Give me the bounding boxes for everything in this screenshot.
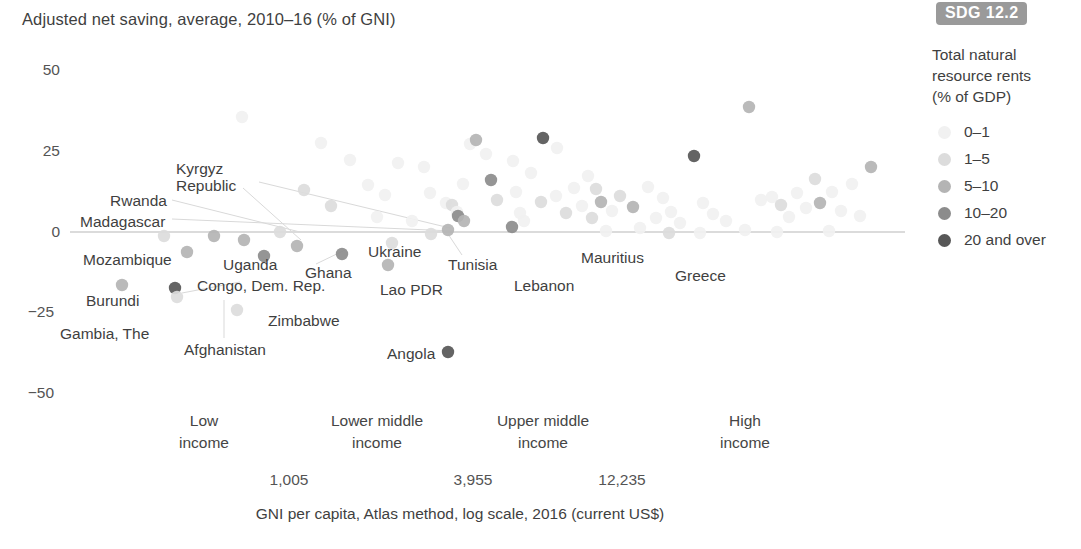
legend-swatch-icon <box>938 153 951 166</box>
scatter-point <box>755 194 767 206</box>
scatter-point <box>158 230 170 242</box>
legend-title: Total natural resource rents (% of GDP) <box>932 44 1081 108</box>
country-label-gambia-the: Gambia, The <box>60 325 149 342</box>
country-label-uganda: Uganda <box>223 256 277 273</box>
scatter-point <box>298 184 310 196</box>
country-label-rwanda: Rwanda <box>110 192 167 209</box>
x-group-line-2: income <box>119 432 289 454</box>
scatter-point <box>739 224 751 236</box>
legend-item-5-10[interactable]: 5–10 <box>932 173 1081 200</box>
scatter-point <box>688 150 700 162</box>
scatter-point <box>634 222 646 234</box>
country-label-lebanon: Lebanon <box>514 277 574 294</box>
country-label-mauritius: Mauritius <box>581 249 644 266</box>
scatter-point <box>510 186 522 198</box>
scatter-point <box>835 205 847 217</box>
country-label-afghanistan: Afghanistan <box>184 341 266 358</box>
x-group-lower-middle-income: Lower middle income <box>292 410 462 454</box>
x-group-line-2: income <box>458 432 628 454</box>
scatter-point <box>823 225 835 237</box>
scatter-point <box>291 240 303 252</box>
scatter-point <box>590 183 602 195</box>
legend-item-label: 0–1 <box>964 123 990 141</box>
y-tick-50: 50 <box>10 61 60 79</box>
legend-item-20-and-over[interactable]: 20 and over <box>932 227 1081 254</box>
scatter-point <box>537 132 549 144</box>
scatter-point <box>568 182 580 194</box>
legend-swatch-icon <box>938 180 951 193</box>
scatter-point <box>480 148 492 160</box>
scatter-point <box>379 189 391 201</box>
scatter-point <box>707 208 719 220</box>
scatter-point <box>814 197 826 209</box>
scatter-point <box>783 211 795 223</box>
legend-item-label: 20 and over <box>964 231 1046 249</box>
scatter-point <box>406 215 418 227</box>
scatter-point <box>231 304 243 316</box>
scatter-point <box>551 142 563 154</box>
legend: Total natural resource rents (% of GDP) … <box>932 44 1081 254</box>
scatter-point <box>525 167 537 179</box>
scatter-point <box>274 226 286 238</box>
scatter-point <box>720 215 732 227</box>
country-label-lao-pdr: Lao PDR <box>380 281 443 298</box>
x-threshold-3955: 3,955 <box>423 471 523 489</box>
country-label-congo-dem-rep: Congo, Dem. Rep. <box>197 277 325 294</box>
country-label-mozambique: Mozambique <box>83 251 172 268</box>
y-tick-neg50: −50 <box>4 384 54 402</box>
scatter-point <box>586 212 598 224</box>
scatter-point <box>424 187 436 199</box>
legend-title-line-3: (% of GDP) <box>932 86 1081 107</box>
scatter-point <box>518 215 530 227</box>
scatter-point <box>458 215 470 227</box>
scatter-point <box>362 179 374 191</box>
scatter-point <box>560 207 572 219</box>
scatter-point <box>425 228 437 240</box>
scatter-point <box>236 111 248 123</box>
scatter-point <box>550 190 562 202</box>
scatter-point <box>846 178 858 190</box>
scatter-point <box>442 346 454 358</box>
x-group-line-2: income <box>660 432 830 454</box>
legend-item-1-5[interactable]: 1–5 <box>932 146 1081 173</box>
x-threshold-12235: 12,235 <box>572 471 672 489</box>
scatter-point <box>491 194 503 206</box>
scatter-point <box>208 230 220 242</box>
country-label-angola: Angola <box>387 345 435 362</box>
scatter-point <box>826 186 838 198</box>
scatter-point <box>595 196 607 208</box>
scatter-point <box>470 134 482 146</box>
x-group-line-2: income <box>292 432 462 454</box>
y-tick-25: 25 <box>10 142 60 160</box>
y-tick-neg25: −25 <box>4 303 54 321</box>
legend-item-label: 5–10 <box>964 177 998 195</box>
scatter-point <box>650 212 662 224</box>
legend-item-10-20[interactable]: 10–20 <box>932 200 1081 227</box>
scatter-point <box>325 200 337 212</box>
x-group-low-income: Low income <box>119 410 289 454</box>
scatter-point <box>336 248 348 260</box>
scatter-point <box>116 279 128 291</box>
scatter-point <box>181 246 193 258</box>
legend-swatch-icon <box>938 207 951 220</box>
scatter-point <box>697 197 709 209</box>
scatter-point <box>854 210 866 222</box>
country-label-greece: Greece <box>675 267 726 284</box>
x-group-line-1: Upper middle <box>458 410 628 432</box>
legend-title-line-2: resource rents <box>932 65 1081 86</box>
scatter-point <box>392 157 404 169</box>
scatter-point <box>535 196 547 208</box>
scatter-point <box>382 259 394 271</box>
scatter-point <box>442 224 454 236</box>
scatter-point <box>600 225 612 237</box>
scatter-point <box>694 227 706 239</box>
legend-item-0-1[interactable]: 0–1 <box>932 119 1081 146</box>
country-label-madagascar: Madagascar <box>80 213 165 230</box>
scatter-point <box>627 201 639 213</box>
scatter-point <box>657 192 669 204</box>
x-group-upper-middle-income: Upper middle income <box>458 410 628 454</box>
scatter-point <box>743 101 755 113</box>
scatter-point <box>238 234 250 246</box>
scatter-point <box>614 190 626 202</box>
scatter-point <box>663 227 675 239</box>
